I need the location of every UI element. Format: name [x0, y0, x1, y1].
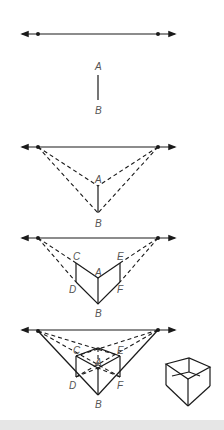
step4-construction: C A E D F B — [22, 236, 175, 319]
label-b: B — [95, 105, 102, 116]
label-b: B — [95, 218, 102, 229]
label-a: A — [94, 61, 102, 72]
svg-text:D: D — [69, 284, 76, 295]
step5-construction: C A E D F B — [22, 328, 175, 410]
svg-text:D: D — [69, 380, 76, 391]
perspective-diagram: A B A B C A E D F B — [0, 0, 224, 430]
svg-text:B: B — [95, 399, 102, 410]
step1-horizon — [22, 32, 175, 36]
finished-box-icon — [166, 358, 210, 406]
svg-text:B: B — [95, 308, 102, 319]
svg-text:A: A — [94, 267, 102, 278]
svg-text:C: C — [73, 345, 81, 356]
svg-text:E: E — [117, 251, 124, 262]
step2-edge: A B — [94, 61, 102, 116]
vanishing-point-right — [156, 32, 160, 36]
vanishing-point-left — [36, 32, 40, 36]
svg-text:F: F — [117, 284, 124, 295]
step3-construction: A B — [22, 145, 175, 229]
svg-text:A: A — [94, 357, 102, 368]
label-a: A — [94, 174, 102, 185]
svg-text:C: C — [73, 251, 81, 262]
footer-bar — [0, 420, 224, 430]
svg-text:F: F — [117, 380, 124, 391]
svg-text:E: E — [117, 345, 124, 356]
